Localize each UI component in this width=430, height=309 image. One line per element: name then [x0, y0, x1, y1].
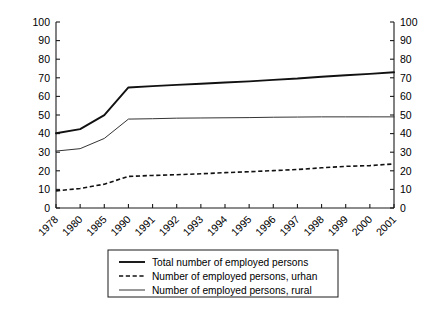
- x-axis-tick-label: 2001: [373, 213, 398, 238]
- series-line-total: [56, 72, 394, 133]
- x-axis-tick-label: 1990: [108, 213, 133, 238]
- y-axis-right-tick-label: 90: [400, 34, 412, 46]
- y-axis-left: 0102030405060708090100: [32, 16, 60, 214]
- y-axis-right-tick-label: 0: [400, 202, 406, 214]
- x-axis-tick-label: 1991: [132, 213, 157, 238]
- y-axis-left-tick-label: 80: [38, 53, 50, 65]
- y-axis-left-tick-label: 100: [32, 16, 50, 28]
- y-axis-right-tick-label: 80: [400, 53, 412, 65]
- chart-figure: 0102030405060708090100 01020304050607080…: [0, 0, 430, 309]
- x-axis-tick-label: 1999: [325, 213, 350, 238]
- x-axis-tick-label: 1998: [301, 213, 326, 238]
- y-axis-left-tick-label: 70: [38, 72, 50, 84]
- y-axis-left-tick-label: 10: [38, 183, 50, 195]
- y-axis-left-tick-label: 30: [38, 146, 50, 158]
- x-axis-tick-label: 2000: [349, 213, 374, 238]
- plot-area: [56, 72, 394, 191]
- y-axis-left-tick-label: 90: [38, 34, 50, 46]
- y-axis-right-tick-label: 20: [400, 165, 412, 177]
- y-axis-right-tick-label: 50: [400, 109, 412, 121]
- y-axis-left-tick-label: 60: [38, 90, 50, 102]
- y-axis-right-tick-label: 30: [400, 146, 412, 158]
- x-axis-tick-label: 1996: [253, 213, 278, 238]
- legend-item-label: Total number of employed persons: [152, 257, 308, 268]
- series-line-urban: [56, 164, 394, 191]
- x-axis-tick-label: 1993: [180, 213, 205, 238]
- y-axis-right-tick-label: 10: [400, 183, 412, 195]
- y-axis-right-tick-label: 70: [400, 72, 412, 84]
- employment-line-chart: 0102030405060708090100 01020304050607080…: [0, 0, 430, 309]
- x-axis-tick-label: 1995: [229, 213, 254, 238]
- y-axis-left-tick-label: 20: [38, 165, 50, 177]
- y-axis-right-tick-label: 60: [400, 90, 412, 102]
- x-axis-tick-label: 1978: [35, 213, 60, 238]
- chart-legend: Total number of employed personsNumber o…: [108, 250, 338, 297]
- x-axis-tick-label: 1992: [156, 213, 181, 238]
- series-line-rural: [56, 117, 394, 151]
- x-axis-tick-label: 1985: [84, 213, 109, 238]
- y-axis-right: 0102030405060708090100: [390, 16, 418, 214]
- legend-item-label: Number of employed persons, rural: [152, 285, 312, 296]
- y-axis-left-tick-label: 0: [44, 202, 50, 214]
- x-axis-tick-label: 1994: [204, 213, 229, 238]
- x-axis-tick-label: 1980: [60, 213, 85, 238]
- y-axis-right-tick-label: 40: [400, 127, 412, 139]
- legend-item-label: Number of employed persons, urhan: [152, 271, 317, 282]
- y-axis-left-tick-label: 50: [38, 109, 50, 121]
- x-axis: 1978198019851990199119921993199419951996…: [35, 204, 398, 238]
- y-axis-left-tick-label: 40: [38, 127, 50, 139]
- y-axis-right-tick-label: 100: [400, 16, 418, 28]
- x-axis-tick-label: 1997: [277, 213, 302, 238]
